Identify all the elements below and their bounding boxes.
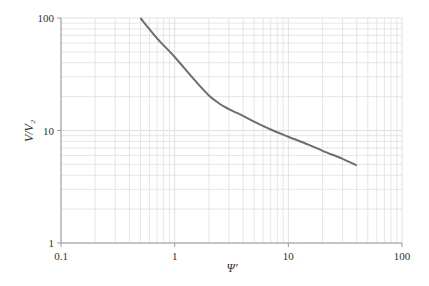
x-axis-label: Ψ′ [226,261,237,275]
y-tick-labels: 110100 [38,12,55,249]
y-tick-label: 100 [38,12,55,24]
x-tick-label: 0.1 [54,250,68,262]
x-tick-label: 1 [172,250,178,262]
y-tick-label: 1 [49,237,55,249]
grid-lines [61,18,402,243]
x-tick-label: 10 [283,250,295,262]
x-tick-label: 100 [394,250,411,262]
y-tick-label: 10 [43,125,55,137]
axes [57,18,402,247]
data-curve [140,18,356,165]
y-axis-label: V/V₂ [22,120,36,142]
chart-canvas: 0.1110100 110100 Ψ′ V/V₂ [0,0,429,286]
